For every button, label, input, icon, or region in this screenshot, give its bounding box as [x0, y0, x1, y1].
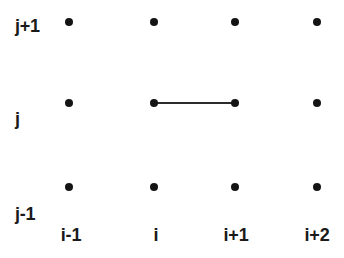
node-iplus1-jplus1 [231, 18, 239, 26]
node-iplus2-jplus1 [313, 18, 321, 26]
node-iplus2-j [313, 99, 321, 107]
node-i-1-j [65, 99, 73, 107]
row-label-j: j [15, 110, 20, 128]
column-label-iplus1: i+1 [224, 226, 249, 244]
node-iplus2-jminus1 [313, 183, 321, 191]
node-iplus1-j [231, 99, 239, 107]
row-label-jminus1: j-1 [15, 205, 35, 223]
edge-i-j-to-iplus1-j [154, 102, 235, 104]
column-label-i: i [154, 226, 159, 244]
node-iplus1-jminus1 [231, 183, 239, 191]
column-label-iplus2: i+2 [305, 226, 330, 244]
column-label-iminus1: i-1 [61, 226, 81, 244]
row-label-jplus1: j+1 [15, 17, 40, 35]
node-i-1-jplus1 [65, 18, 73, 26]
node-i-j [150, 99, 158, 107]
grid-stencil-figure: j+1jj-1i-1ii+1i+2 [0, 0, 344, 258]
node-i-jminus1 [150, 183, 158, 191]
node-i-1-jminus1 [65, 183, 73, 191]
node-i-jplus1 [150, 18, 158, 26]
